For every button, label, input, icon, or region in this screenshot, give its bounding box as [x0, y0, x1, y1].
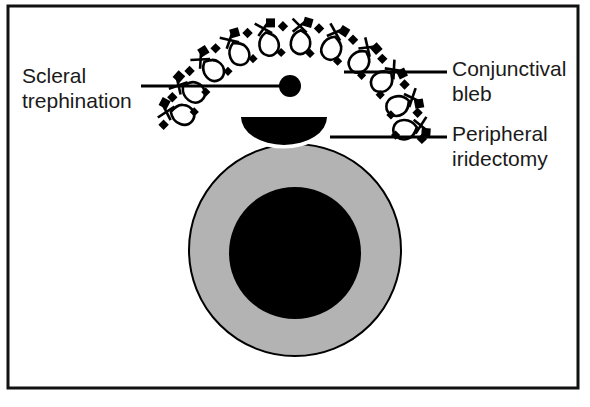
suture-tag-mark [414, 98, 424, 108]
pupil-shape [229, 187, 361, 319]
peripheral-iridectomy-label-line2: iridectomy [452, 147, 548, 170]
scleral-trephination-label-line2: trephination [22, 89, 132, 112]
scleral-trephination-label-line1: Scleral [22, 64, 86, 87]
diagram-canvas: Scleral trephination Conjunctival bleb P… [0, 0, 590, 407]
peripheral-iridectomy-label-line1: Peripheral [452, 122, 548, 145]
eye-surgery-diagram: Scleral trephination Conjunctival bleb P… [0, 0, 590, 407]
trephination-marker-dot [279, 75, 301, 97]
conjunctival-bleb-label-line2: bleb [452, 82, 492, 105]
conjunctival-bleb-label-line1: Conjunctival [452, 57, 566, 80]
suture-tag-mark [266, 18, 275, 27]
